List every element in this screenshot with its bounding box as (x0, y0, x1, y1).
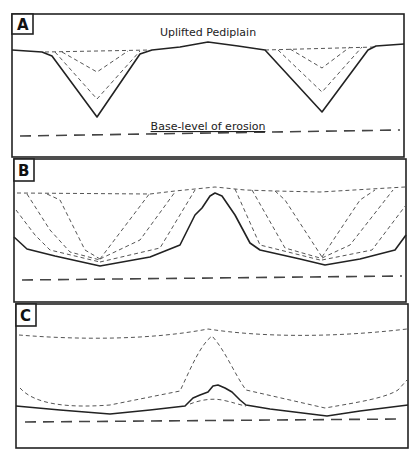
panel-b-slope-left-4 (100, 193, 150, 259)
panel-c-current-surface (16, 385, 408, 416)
panel-b-base-level-line (22, 276, 402, 280)
base-level-label: Base-level of erosion (151, 120, 266, 133)
panel-b-slope-right-3 (275, 191, 322, 257)
panel-c-frame (16, 304, 408, 448)
panel-b-slope-right-5 (322, 190, 393, 258)
panel-c-label: C (20, 307, 31, 325)
panel-b-slope-left-3 (47, 194, 100, 259)
panel-b-slope-left-1 (16, 210, 100, 262)
panel-a-stage1-valley-left (62, 51, 128, 72)
panel-a-stage2-valley-left (55, 51, 140, 99)
panel-b-original-surface (17, 187, 405, 194)
panel-b-slope-left-5 (100, 192, 175, 259)
panel-b-slope-right-2 (252, 190, 320, 258)
panel-c: C (16, 304, 408, 448)
panel-c-residual-base (190, 399, 246, 406)
panel-b-label: B (18, 162, 29, 180)
panel-b-current-surface (14, 193, 406, 266)
panel-c-stage-b-surface (20, 336, 407, 408)
panel-b-frame (14, 159, 406, 302)
erosion-cycle-diagram: A Uplifted Pediplain Base-level of erosi… (0, 0, 420, 458)
panel-a: A Uplifted Pediplain Base-level of erosi… (12, 14, 404, 157)
panel-a-original-surface-right (265, 47, 375, 50)
panel-a-stage2-valley-right (278, 47, 362, 92)
panel-b: B (14, 159, 406, 302)
panel-b-slope-left-2 (27, 194, 100, 260)
panel-b-slope-right-1 (235, 189, 320, 260)
panel-a-label: A (17, 16, 29, 34)
panel-a-stage1-valley-right (290, 47, 350, 68)
panel-c-base-level-line (25, 419, 402, 422)
panel-a-original-surface-left (45, 50, 150, 52)
panel-a-current-surface (12, 42, 404, 117)
uplifted-pediplain-label: Uplifted Pediplain (160, 26, 256, 39)
panel-b-slope-left-6 (100, 190, 195, 262)
